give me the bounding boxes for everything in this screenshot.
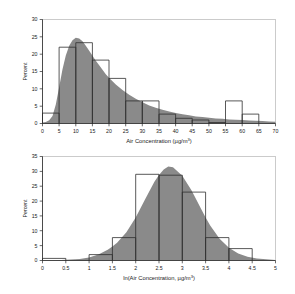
x-tick-label: 4.5 — [249, 265, 256, 271]
y-tick-label: 30 — [32, 16, 38, 22]
y-tick-label: 25 — [32, 34, 38, 40]
y-axis-title: Percent — [22, 62, 28, 80]
y-tick-label: 10 — [32, 86, 38, 92]
y-axis-tick-labels: 0 5 10 15 20 25 30 35 — [32, 153, 38, 263]
y-axis-ticks — [40, 20, 43, 124]
y-tick-label: 20 — [32, 51, 38, 57]
y-tick-label: 10 — [32, 228, 38, 234]
x-tick-label: 20 — [106, 128, 112, 134]
x-tick-label: 45 — [189, 128, 195, 134]
x-tick-label: 0 — [41, 128, 44, 134]
y-axis-tick-labels: 0 5 10 15 20 25 30 — [32, 16, 38, 126]
y-tick-label: 30 — [32, 168, 38, 174]
y-tick-label: 35 — [32, 153, 38, 159]
x-axis-title-base: ln(Air Concentration, µg/m — [123, 275, 191, 281]
x-tick-label: 50 — [206, 128, 212, 134]
x-tick-label: 30 — [139, 128, 145, 134]
x-axis-title: ln(Air Concentration, µg/m3) — [123, 274, 195, 281]
x-tick-label: 65 — [256, 128, 262, 134]
x-tick-label: 2.5 — [155, 265, 162, 271]
y-tick-label: 5 — [35, 243, 38, 249]
x-tick-label: 3.5 — [202, 265, 209, 271]
y-tick-label: 25 — [32, 183, 38, 189]
x-tick-label: 70 — [273, 128, 279, 134]
y-axis-ticks — [40, 157, 43, 261]
x-tick-label: 15 — [90, 128, 96, 134]
x-tick-label: 4 — [227, 265, 230, 271]
x-tick-label: 0 — [41, 265, 44, 271]
x-tick-label: 2 — [134, 265, 137, 271]
x-tick-label: 60 — [239, 128, 245, 134]
y-axis-title: Percent — [22, 199, 28, 217]
log-air-concentration-histogram-svg: 0 0.5 1 1.5 2 2.5 3 3.5 4 4.5 5 — [0, 147, 295, 294]
x-axis-title: Air Concentration (µg/m3) — [126, 137, 192, 144]
x-axis-title-tail: ) — [193, 275, 195, 281]
x-axis-ticks — [43, 261, 276, 264]
y-tick-label: 0 — [35, 257, 38, 263]
x-tick-label: 3 — [181, 265, 184, 271]
y-tick-label: 5 — [35, 103, 38, 109]
chart-panel-log-air-concentration: 0 0.5 1 1.5 2 2.5 3 3.5 4 4.5 5 — [0, 147, 295, 294]
x-tick-label: 55 — [223, 128, 229, 134]
x-tick-label: 5 — [274, 265, 277, 271]
figure-container: 0 5 10 15 20 25 30 35 40 45 50 55 60 65 … — [0, 0, 295, 294]
y-tick-label: 0 — [35, 120, 38, 126]
x-tick-label: 40 — [173, 128, 179, 134]
y-tick-label: 20 — [32, 198, 38, 204]
y-tick-label: 15 — [32, 213, 38, 219]
x-tick-label: 1 — [88, 265, 91, 271]
x-tick-label: 35 — [156, 128, 162, 134]
air-concentration-histogram-svg: 0 5 10 15 20 25 30 35 40 45 50 55 60 65 … — [0, 0, 295, 147]
x-axis-tick-labels: 0 0.5 1 1.5 2 2.5 3 3.5 4 4.5 5 — [41, 265, 277, 271]
y-tick-label: 15 — [32, 68, 38, 74]
x-tick-label: 5 — [58, 128, 61, 134]
x-tick-label: 25 — [123, 128, 129, 134]
x-tick-label: 10 — [73, 128, 79, 134]
x-axis-title-base: Air Concentration (µg/m — [126, 138, 188, 144]
x-axis-tick-labels: 0 5 10 15 20 25 30 35 40 45 50 55 60 65 … — [41, 128, 278, 134]
x-tick-label: 1.5 — [109, 265, 116, 271]
x-axis-title-tail: ) — [190, 138, 192, 144]
x-axis-ticks — [43, 124, 276, 127]
x-tick-label: 0.5 — [62, 265, 69, 271]
chart-panel-air-concentration: 0 5 10 15 20 25 30 35 40 45 50 55 60 65 … — [0, 0, 295, 147]
